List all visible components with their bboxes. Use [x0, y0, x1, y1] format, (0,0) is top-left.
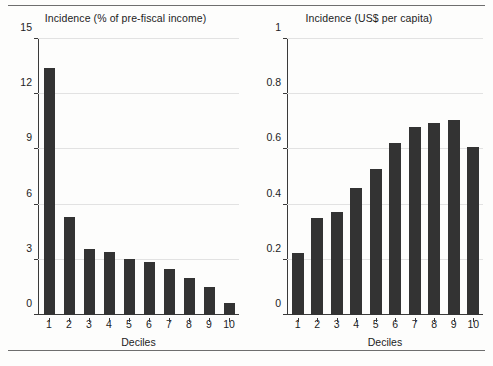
- y-tick-label: 0.8: [266, 76, 281, 88]
- x-tick-label: 2: [59, 318, 79, 330]
- x-tick-mark: [89, 318, 90, 322]
- x-tick-mark: [149, 318, 150, 322]
- bar-slot: [199, 39, 219, 315]
- bar: [292, 253, 304, 315]
- y-tick-label: 12: [20, 76, 32, 88]
- x-tick-mark: [49, 318, 50, 322]
- bar-series-right: [288, 39, 483, 315]
- bar: [428, 123, 440, 315]
- x-tick-label: 8: [425, 318, 445, 330]
- y-tick-label: 0.6: [266, 131, 281, 143]
- x-tick-mark: [109, 318, 110, 322]
- x-tick-mark: [298, 318, 299, 322]
- x-tick-mark: [434, 318, 435, 322]
- x-tick-label: 7: [405, 318, 425, 330]
- x-tick-mark: [376, 318, 377, 322]
- x-tick-label: 8: [179, 318, 199, 330]
- x-tick-mark: [473, 318, 474, 322]
- y-tick-label: 3: [26, 242, 32, 254]
- y-tick-mark: [34, 204, 38, 205]
- bar: [467, 147, 479, 315]
- bar-slot: [405, 39, 425, 315]
- y-tick-mark: [283, 38, 287, 39]
- x-tick-label: 5: [119, 318, 139, 330]
- bar: [124, 259, 135, 315]
- bar-slot: [99, 39, 119, 315]
- bar-slot: [39, 39, 59, 315]
- bar-slot: [366, 39, 386, 315]
- y-tick-label: 0.2: [266, 242, 281, 254]
- figure-canvas: Incidence (% of pre-fiscal income) 03691…: [0, 0, 493, 366]
- bar: [224, 303, 235, 315]
- chart-title-right: Incidence (US$ per capita): [249, 12, 489, 24]
- y-tick-mark: [283, 148, 287, 149]
- x-tick-mark: [189, 318, 190, 322]
- bar: [331, 212, 343, 316]
- x-tick-mark: [169, 318, 170, 322]
- x-tick-label: 6: [139, 318, 159, 330]
- y-tick-label: 6: [26, 187, 32, 199]
- bar: [144, 262, 155, 315]
- y-tick-mark: [283, 204, 287, 205]
- x-tick-label: 3: [327, 318, 347, 330]
- x-tick-mark: [415, 318, 416, 322]
- bar: [84, 249, 95, 315]
- x-tick-label: 5: [366, 318, 386, 330]
- x-tick-label: 10: [219, 318, 239, 330]
- x-tick-mark: [395, 318, 396, 322]
- bar: [184, 278, 195, 315]
- x-tick-mark: [209, 318, 210, 322]
- bar-series-left: [39, 39, 239, 315]
- bar-slot: [139, 39, 159, 315]
- x-tick-mark: [356, 318, 357, 322]
- bottom-rule: [8, 350, 485, 351]
- x-tick-label: 9: [199, 318, 219, 330]
- x-tick-label: 1: [39, 318, 59, 330]
- y-tick-label: 15: [20, 21, 32, 33]
- x-tick-labels-left: 12345678910: [39, 318, 239, 330]
- x-axis-title-left: Deciles: [38, 336, 239, 348]
- bar-slot: [327, 39, 347, 315]
- bar-slot: [288, 39, 308, 315]
- x-tick-label: 2: [308, 318, 328, 330]
- x-tick-label: 4: [99, 318, 119, 330]
- bar-slot: [386, 39, 406, 315]
- x-tick-mark: [317, 318, 318, 322]
- x-tick-label: 9: [444, 318, 464, 330]
- bar: [44, 68, 55, 315]
- chart-title-left: Incidence (% of pre-fiscal income): [4, 12, 247, 24]
- bar: [448, 120, 460, 315]
- bar-slot: [79, 39, 99, 315]
- plot-area-left: 03691215 12345678910 Deciles: [38, 39, 239, 315]
- bar-slot: [425, 39, 445, 315]
- x-tick-label: 7: [159, 318, 179, 330]
- plot-area-right: 00.20.40.60.81 12345678910 Deciles: [287, 39, 483, 315]
- y-tick-label: 0.4: [266, 187, 281, 199]
- y-tick-mark: [34, 259, 38, 260]
- bar-slot: [119, 39, 139, 315]
- bar-slot: [444, 39, 464, 315]
- y-tick-label: 1: [275, 21, 281, 33]
- bar: [64, 217, 75, 315]
- chart-panel-right: Incidence (US$ per capita) 00.20.40.60.8…: [249, 12, 489, 342]
- x-tick-label: 1: [288, 318, 308, 330]
- x-tick-label: 4: [347, 318, 367, 330]
- bar: [350, 188, 362, 315]
- y-tick-mark: [34, 148, 38, 149]
- bar-slot: [59, 39, 79, 315]
- x-tick-label: 10: [464, 318, 484, 330]
- bar: [164, 269, 175, 315]
- bar: [204, 287, 215, 315]
- y-tick-mark: [283, 314, 287, 315]
- x-tick-mark: [337, 318, 338, 322]
- x-tick-labels-right: 12345678910: [288, 318, 483, 330]
- y-tick-mark: [34, 93, 38, 94]
- x-tick-mark: [129, 318, 130, 322]
- x-tick-mark: [454, 318, 455, 322]
- y-tick-label: 0: [275, 297, 281, 309]
- bar-slot: [179, 39, 199, 315]
- bar: [370, 169, 382, 315]
- y-tick-label: 0: [26, 297, 32, 309]
- chart-panel-left: Incidence (% of pre-fiscal income) 03691…: [4, 12, 247, 342]
- y-tick-mark: [283, 93, 287, 94]
